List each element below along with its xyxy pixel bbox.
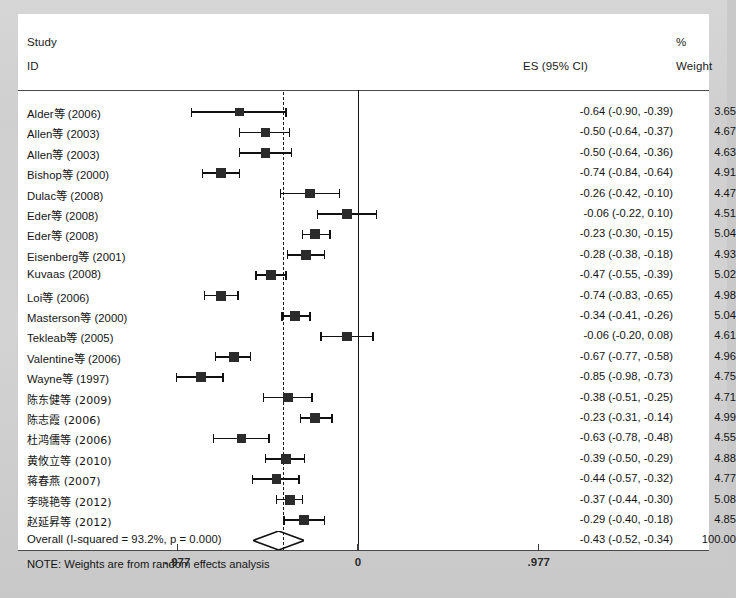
ci-upper-cap <box>329 230 331 239</box>
table-row: 李晓艳等 (2012)-0.37 (-0.44, -0.30)5.08 <box>18 490 709 510</box>
ci-lower-cap <box>215 352 217 361</box>
ci-lower-cap <box>300 414 302 423</box>
effect-size-ci: -0.67 (-0.77, -0.58) <box>523 350 673 362</box>
effect-size-ci: -0.26 (-0.42, -0.10) <box>523 187 673 199</box>
ci-upper-cap <box>324 250 326 259</box>
weight-value: 5.04 <box>676 227 736 239</box>
weight-value: 4.99 <box>676 411 736 423</box>
table-row: 陈志霞 (2006)-0.23 (-0.31, -0.14)4.99 <box>18 408 709 428</box>
effect-size-marker <box>261 148 271 158</box>
weight-value: 4.98 <box>676 289 736 301</box>
effect-size-marker <box>342 209 351 218</box>
ci-lower-cap <box>255 271 257 280</box>
effect-size-ci: -0.50 (-0.64, -0.36) <box>523 146 673 158</box>
study-label: 李晓艳等 (2012) <box>27 493 112 509</box>
table-row: Alder等 (2006)-0.64 (-0.90, -0.39)3.65 <box>18 102 709 122</box>
axis-tick <box>357 544 358 551</box>
ci-upper-cap <box>331 414 333 423</box>
ci-lower-cap <box>176 373 178 382</box>
axis-tick <box>177 544 178 551</box>
effect-size-ci: -0.06 (-0.20, 0.08) <box>523 329 673 341</box>
forest-plot: Study ID ES (95% CI) % Weight Alder等 (20… <box>18 14 709 551</box>
effect-size-marker <box>229 352 239 362</box>
weight-value: 4.67 <box>676 125 736 137</box>
effect-size-marker <box>310 229 320 239</box>
ci-upper-cap <box>298 475 300 484</box>
weight-value: 4.51 <box>676 207 736 219</box>
study-label: Alder等 (2006) <box>27 105 101 121</box>
effect-size-marker <box>272 474 282 484</box>
table-row: Eder等 (2008)-0.06 (-0.22, 0.10)4.51 <box>18 204 709 224</box>
table-row: Eder等 (2008)-0.23 (-0.30, -0.15)5.04 <box>18 224 709 244</box>
ci-lower-cap <box>281 312 283 321</box>
ci-upper-cap <box>311 393 313 402</box>
ci-lower-cap <box>239 148 241 157</box>
effect-size-marker <box>266 270 276 280</box>
axis-tick-label: 0 <box>355 556 361 568</box>
study-label: 杜鸿儒等 (2006) <box>27 431 112 447</box>
study-label: 黄攸立等 (2010) <box>27 452 112 468</box>
table-row: Valentine等 (2006)-0.67 (-0.77, -0.58)4.9… <box>18 347 709 367</box>
study-label: 陈东健等 (2009) <box>27 391 112 407</box>
x-axis: -.9770.977 <box>18 550 709 590</box>
table-row: Masterson等 (2000)-0.34 (-0.41, -0.26)5.0… <box>18 306 709 326</box>
ci-upper-cap <box>237 291 239 300</box>
study-label: Eder等 (2008) <box>27 207 98 223</box>
effect-size-ci: -0.38 (-0.51, -0.25) <box>523 391 673 403</box>
table-row: 黄攸立等 (2010)-0.39 (-0.50, -0.29)4.88 <box>18 449 709 469</box>
study-header-line2: ID <box>27 60 39 72</box>
weight-value: 5.04 <box>676 309 736 321</box>
table-row: Bishop等 (2000)-0.74 (-0.84, -0.64)4.91 <box>18 163 709 183</box>
weight-value: 3.65 <box>676 105 736 117</box>
weight-value: 4.71 <box>676 391 736 403</box>
study-label: Allen等 (2003) <box>27 146 100 162</box>
effect-size-marker <box>283 393 293 403</box>
weight-value: 5.08 <box>676 493 736 505</box>
table-row: Loi等 (2006)-0.74 (-0.83, -0.65)4.98 <box>18 286 709 306</box>
weight-column-header: Weight <box>676 60 712 72</box>
weight-value: 4.91 <box>676 166 736 178</box>
ci-lower-cap <box>213 434 215 443</box>
weight-value: 4.61 <box>676 329 736 341</box>
effect-size-ci: -0.44 (-0.57, -0.32) <box>523 472 673 484</box>
effect-size-marker <box>310 413 320 423</box>
weight-value: 4.85 <box>676 513 736 525</box>
table-row: 赵延昇等 (2012)-0.29 (-0.40, -0.18)4.85 <box>18 510 709 530</box>
ci-upper-cap <box>302 495 304 504</box>
effect-size-marker <box>285 495 295 505</box>
ci-upper-cap <box>304 454 306 463</box>
weight-value: 4.96 <box>676 350 736 362</box>
ci-lower-cap <box>191 108 193 117</box>
ci-upper-cap <box>339 189 341 198</box>
weight-value: 4.88 <box>676 452 736 464</box>
weight-value: 5.02 <box>676 268 736 280</box>
table-row: Tekleab等 (2005)-0.06 (-0.20, 0.08)4.61 <box>18 326 709 346</box>
study-label: Eisenberg等 (2001) <box>27 248 126 264</box>
ci-upper-cap <box>372 332 374 341</box>
effect-size-marker <box>290 311 300 321</box>
table-row: Eisenberg等 (2001)-0.28 (-0.38, -0.18)4.9… <box>18 245 709 265</box>
effect-size-ci: -0.74 (-0.84, -0.64) <box>523 166 673 178</box>
effect-size-marker <box>196 372 206 382</box>
effect-size-marker <box>216 291 226 301</box>
ci-upper-cap <box>285 108 287 117</box>
ci-lower-cap <box>265 454 267 463</box>
effect-size-ci: -0.34 (-0.41, -0.26) <box>523 309 673 321</box>
weight-value: 4.63 <box>676 146 736 158</box>
table-row: 蒋春燕 (2007)-0.44 (-0.57, -0.32)4.77 <box>18 469 709 489</box>
header-divider <box>18 90 709 91</box>
study-label: Valentine等 (2006) <box>27 350 121 366</box>
ci-lower-cap <box>204 291 206 300</box>
effect-size-marker <box>342 332 352 342</box>
effect-size-marker <box>235 108 244 117</box>
study-label: Bishop等 (2000) <box>27 166 109 182</box>
study-label: Dulac等 (2008) <box>27 187 103 203</box>
ci-lower-cap <box>317 210 319 219</box>
ci-upper-cap <box>222 373 224 382</box>
ci-lower-cap <box>276 495 278 504</box>
effect-size-ci: -0.28 (-0.38, -0.18) <box>523 248 673 260</box>
table-row: Allen等 (2003)-0.50 (-0.64, -0.36)4.63 <box>18 143 709 163</box>
weight-value: 4.47 <box>676 187 736 199</box>
study-label: 赵延昇等 (2012) <box>27 513 112 529</box>
weight-value: 4.55 <box>676 431 736 443</box>
